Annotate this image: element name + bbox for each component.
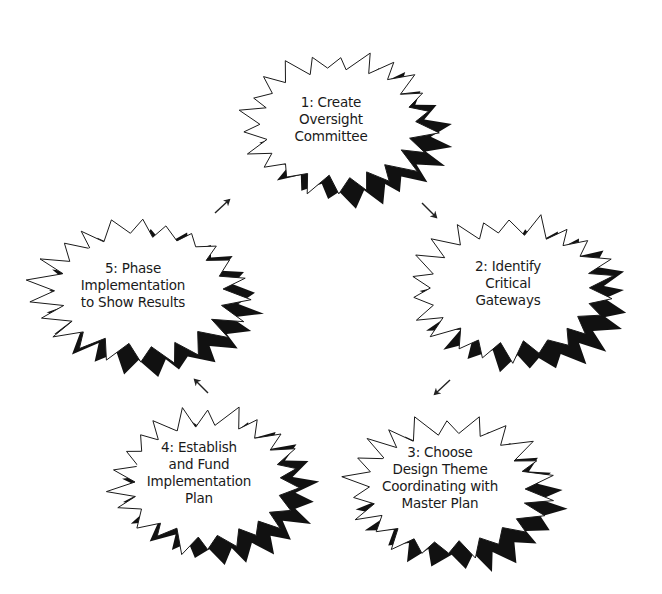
step-4-line-2: and Fund: [147, 456, 251, 473]
step-3-line-4: Master Plan: [382, 495, 498, 512]
process-cycle-diagram: 1: Create Oversight Committee 2: Identif…: [0, 0, 662, 594]
arrow-step-4-to-step-5-icon: [215, 200, 229, 213]
step-5-line-3: to Show Results: [81, 294, 185, 311]
arrow-step-3-to-step-4-icon: [195, 380, 208, 393]
arrow-step-1-to-step-2-icon: [422, 203, 436, 217]
step-5-line-2: Implementation: [81, 277, 185, 294]
step-2-label: 2: Identify Critical Gateways: [475, 258, 541, 309]
step-1-label: 1: Create Oversight Committee: [294, 94, 367, 145]
step-4-line-1: 4: Establish: [147, 439, 251, 456]
step-3-line-2: Design Theme: [382, 461, 498, 478]
step-4-line-4: Plan: [147, 490, 251, 507]
step-5-line-1: 5: Phase: [81, 260, 185, 277]
step-1-line-2: Oversight: [294, 111, 367, 128]
step-5-label: 5: Phase Implementation to Show Results: [81, 260, 185, 311]
step-3-line-3: Coordinating with: [382, 478, 498, 495]
step-1-line-3: Committee: [294, 128, 367, 145]
arrow-step-2-to-step-3-icon: [435, 380, 450, 394]
step-2-line-3: Gateways: [475, 292, 541, 309]
step-3-line-1: 3: Choose: [382, 444, 498, 461]
step-4-line-3: Implementation: [147, 473, 251, 490]
step-4-label: 4: Establish and Fund Implementation Pla…: [147, 439, 251, 507]
step-2-line-2: Critical: [475, 275, 541, 292]
step-1-line-1: 1: Create: [294, 94, 367, 111]
step-2-line-1: 2: Identify: [475, 258, 541, 275]
step-3-label: 3: Choose Design Theme Coordinating with…: [382, 444, 498, 512]
